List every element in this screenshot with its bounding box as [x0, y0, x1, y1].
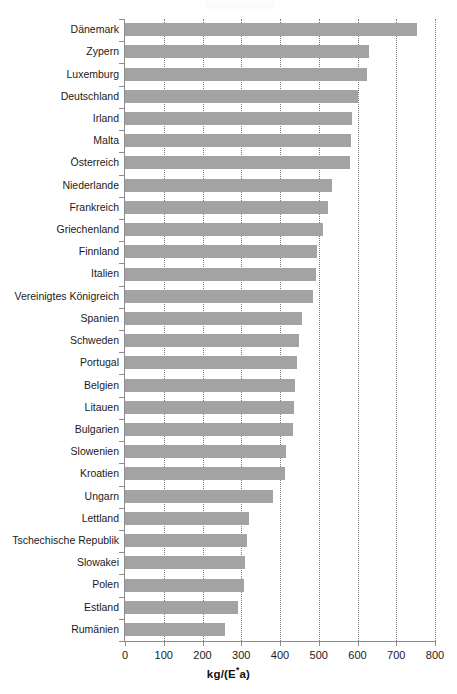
bar-row [125, 530, 435, 552]
category-axis-labels: DänemarkZypernLuxemburgDeutschlandIrland… [0, 19, 125, 641]
bar-row [125, 263, 435, 285]
category-label: Rumänien [6, 624, 125, 635]
bar [125, 445, 286, 458]
bar [125, 90, 358, 103]
x-axis-title-text: kg/(E [207, 668, 236, 680]
y-tick [119, 619, 125, 620]
bar [125, 201, 328, 214]
y-tick [119, 374, 125, 375]
bar-row [125, 19, 435, 41]
x-axis-title: kg/(E*a) [0, 668, 457, 680]
bar-row [125, 86, 435, 108]
category-label: Ungarn [6, 491, 125, 502]
bar-row [125, 486, 435, 508]
bar-row [125, 419, 435, 441]
bar-row [125, 552, 435, 574]
y-tick [119, 419, 125, 420]
bar-row [125, 508, 435, 530]
bar [125, 268, 316, 281]
bar [125, 334, 299, 347]
category-label: Polen [6, 579, 125, 590]
category-label: Lettland [6, 513, 125, 524]
category-label: Vereinigtes Königreich [6, 291, 125, 302]
y-tick [119, 152, 125, 153]
x-tick [280, 641, 281, 646]
x-tick-label: 500 [299, 649, 339, 661]
category-label: Schweden [6, 335, 125, 346]
y-tick [119, 530, 125, 531]
x-tick-label: 0 [105, 649, 145, 661]
y-tick [119, 597, 125, 598]
bar [125, 45, 369, 58]
y-tick [119, 552, 125, 553]
bar-row [125, 63, 435, 85]
bar-row [125, 197, 435, 219]
bar-row [125, 108, 435, 130]
category-label: Luxemburg [6, 69, 125, 80]
y-tick [119, 486, 125, 487]
bar-row [125, 308, 435, 330]
bar-row [125, 152, 435, 174]
y-tick [119, 175, 125, 176]
category-label: Frankreich [6, 202, 125, 213]
category-label: Portugal [6, 357, 125, 368]
category-label: Irland [6, 113, 125, 124]
bar-row [125, 574, 435, 596]
y-tick [119, 63, 125, 64]
y-tick [119, 330, 125, 331]
bar-row [125, 130, 435, 152]
bar [125, 223, 323, 236]
y-tick [119, 352, 125, 353]
bar [125, 179, 332, 192]
y-tick [119, 108, 125, 109]
category-label: Deutschland [6, 91, 125, 102]
bar-row [125, 619, 435, 641]
x-tick [241, 641, 242, 646]
category-label: Zypern [6, 46, 125, 57]
category-label: Litauen [6, 402, 125, 413]
x-tick [435, 641, 436, 646]
x-tick-label: 300 [221, 649, 261, 661]
category-label: Slowenien [6, 446, 125, 457]
x-tick [358, 641, 359, 646]
bar [125, 356, 297, 369]
bar-row [125, 41, 435, 63]
bar-row [125, 374, 435, 396]
x-tick-label: 200 [183, 649, 223, 661]
bar-chart: DänemarkZypernLuxemburgDeutschlandIrland… [0, 0, 457, 694]
bar [125, 68, 367, 81]
x-tick-label: 800 [415, 649, 455, 661]
bar [125, 312, 302, 325]
bar [125, 379, 295, 392]
bar-row [125, 352, 435, 374]
bar [125, 534, 247, 547]
y-tick [119, 41, 125, 42]
category-label: Tschechische Republik [6, 535, 125, 546]
bar-row [125, 330, 435, 352]
bar [125, 290, 313, 303]
category-label: Slowakei [6, 557, 125, 568]
x-tick [396, 641, 397, 646]
plot-area [125, 19, 435, 641]
category-label: Belgien [6, 380, 125, 391]
category-label: Bulgarien [6, 424, 125, 435]
y-tick [119, 397, 125, 398]
x-tick [319, 641, 320, 646]
category-label: Italien [6, 268, 125, 279]
x-tick-label: 100 [144, 649, 184, 661]
bar-row [125, 441, 435, 463]
bar-row [125, 597, 435, 619]
scan-artifact [205, 1, 275, 9]
bar [125, 467, 285, 480]
x-tick [203, 641, 204, 646]
category-label: Kroatien [6, 468, 125, 479]
y-tick [119, 508, 125, 509]
bar-row [125, 219, 435, 241]
x-tick [164, 641, 165, 646]
y-tick [119, 219, 125, 220]
category-label: Griechenland [6, 224, 125, 235]
x-tick [125, 641, 126, 646]
y-tick [119, 197, 125, 198]
bar [125, 401, 294, 414]
y-tick [119, 463, 125, 464]
